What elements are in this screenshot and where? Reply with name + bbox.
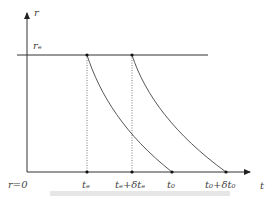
point-te-dte-top [130, 53, 133, 56]
point-t0-axis [170, 170, 173, 173]
diagram-canvas [0, 0, 275, 201]
origin-label: r=0 [8, 180, 28, 190]
tick-label-te-dte: tₑ+δtₑ [115, 180, 145, 190]
x-axis-label: t [260, 181, 264, 191]
emission-radius-label: rₑ [33, 41, 42, 51]
tick-label-t0-dt0: t₀+δt₀ [205, 180, 235, 190]
point-te-top [85, 53, 88, 56]
point-t0-dt0-axis [224, 170, 227, 173]
light-ray-curve-2 [132, 55, 226, 172]
light-ray-curve-1 [87, 55, 172, 172]
point-te-dte-axis [130, 170, 133, 173]
y-axis-label: r [34, 8, 39, 18]
point-te-axis [85, 170, 88, 173]
tick-label-te: tₑ [82, 180, 90, 190]
tick-label-t0: t₀ [167, 180, 175, 190]
figure-caption [50, 191, 230, 196]
